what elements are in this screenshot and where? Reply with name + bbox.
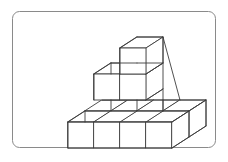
cube-front-face — [146, 122, 172, 148]
cube-stack-figure: Isometric cube stack illustration — [0, 0, 228, 162]
cube-front-face — [120, 122, 146, 148]
cube-front-face — [94, 74, 120, 100]
front-row-bottom-layer — [68, 111, 189, 148]
cube-front-face — [120, 48, 146, 74]
figure-root: Isometric cube stack illustration — [0, 0, 228, 162]
cube-front-face — [120, 74, 146, 100]
cube-front-face — [94, 122, 120, 148]
cube-front-face — [68, 122, 94, 148]
